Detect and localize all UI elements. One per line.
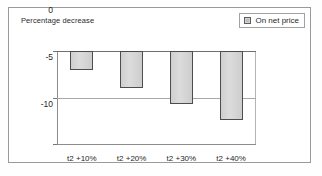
bar-4[interactable] (220, 51, 243, 120)
y-tick-label-2: -10 (19, 99, 53, 109)
bar-slot (170, 51, 193, 145)
x-tick-label-1: t2 +10% (57, 154, 107, 163)
bar-slot (220, 51, 243, 145)
bar-group (57, 51, 256, 145)
x-tick-label-4: t2 +40% (206, 154, 256, 163)
y-tick-label-1: -5 (19, 52, 53, 62)
chart-frame: Percentage decrease On net price 0 -5 -1… (8, 7, 311, 163)
y-axis-labels: 0 -5 -10 (13, 8, 53, 164)
x-axis-labels: t2 +10%t2 +20%t2 +30%t2 +40% (57, 154, 256, 170)
x-tick-label-3: t2 +30% (157, 154, 207, 163)
chart-page: Percentage decrease On net price 0 -5 -1… (0, 0, 322, 176)
x-tick-label-2: t2 +20% (107, 154, 157, 163)
bar-slot (70, 51, 93, 145)
bar-slot (120, 51, 143, 145)
legend-swatch-icon (244, 17, 251, 24)
bar-3[interactable] (170, 51, 193, 104)
plot-area (57, 51, 256, 145)
y-tick-label-0: 0 (19, 5, 53, 15)
chart-legend: On net price (239, 13, 305, 28)
bar-1[interactable] (70, 51, 93, 70)
bar-2[interactable] (120, 51, 143, 88)
legend-label: On net price (255, 16, 299, 25)
